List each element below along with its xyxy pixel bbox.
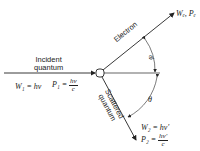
incident-momentum-fraction: hνc [69, 78, 78, 93]
fraction-denominator: c [69, 86, 78, 93]
scattered-momentum-fraction: hν′c [158, 133, 168, 148]
incident-label-line2: quantum [34, 64, 63, 72]
electron-target [96, 69, 104, 77]
incident-energy: W₁ = hν [15, 82, 41, 91]
electron-result: Wₑ, Pₑ [176, 9, 196, 18]
incident-momentum-lhs: P₁ = [52, 80, 67, 89]
incident-momentum: P₁ = hνc [52, 78, 78, 93]
scattered-momentum: P₂ = hν′c [141, 133, 168, 148]
incident-label: Incident quantum [34, 56, 63, 72]
diagram-lines [0, 0, 200, 151]
compton-scattering-diagram: Incident quantum W₁ = hν P₁ = hνc Electr… [0, 0, 200, 151]
electron-arrow [103, 13, 174, 70]
scattered-momentum-lhs: P₂ = [141, 135, 156, 144]
theta-angle-arc [128, 77, 157, 117]
theta-angle-label: θ [148, 95, 152, 104]
fraction-denominator: c [158, 141, 168, 148]
scattered-energy: W₂ = hν′ [141, 123, 169, 132]
